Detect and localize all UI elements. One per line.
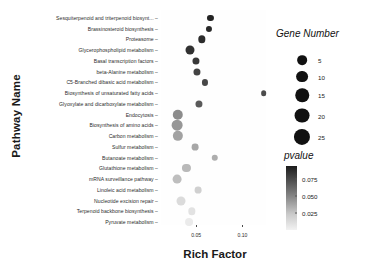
pvalue-legend-tick: [295, 179, 297, 180]
data-point: [172, 109, 182, 119]
data-point: [202, 79, 208, 85]
gene-number-legend-dot: [297, 55, 307, 65]
gene-number-legend-label: 25: [318, 134, 325, 141]
gene-number-legend-title: Gene Number: [276, 28, 376, 39]
y-tick-label: Nucleotide excision repair –: [3, 198, 158, 204]
x-tick-mark: [196, 225, 197, 227]
gene-number-legend-dot: [295, 108, 310, 123]
y-tick-label: Endocytosis –: [3, 112, 158, 118]
y-tick-label: Glycerophospholipid metabolism –: [3, 47, 158, 53]
gene-number-legend-label: 5: [318, 56, 321, 63]
data-point: [177, 196, 186, 205]
plot-area: [161, 10, 266, 225]
pvalue-legend-label: 0.025: [302, 210, 317, 217]
data-point: [196, 100, 203, 107]
y-tick-label: Pyruvate metabolism –: [3, 219, 158, 225]
pvalue-legend-tick: [295, 196, 297, 197]
pvalue-colorbar: [286, 166, 297, 230]
y-tick-label: Sulfur metabolism –: [3, 144, 158, 150]
data-point: [211, 154, 217, 160]
gene-number-legend-label: 10: [318, 73, 325, 80]
data-point: [207, 15, 213, 21]
y-tick-label: Glyoxylate and dicarboxylate metabolism …: [3, 101, 158, 107]
x-axis-title: Rich Factor: [150, 248, 280, 260]
gene-number-legend-dot: [294, 129, 310, 145]
data-point: [261, 90, 267, 96]
y-axis-tick-labels: Sesquiterpenoid and triterpenoid biosynt…: [0, 0, 158, 267]
data-point: [188, 208, 195, 215]
y-tick-label: mRNA surveillance pathway –: [3, 176, 158, 182]
pvalue-legend-tick: [295, 213, 297, 214]
data-point: [173, 131, 183, 141]
gene-number-legend: Gene Number 510152025: [284, 28, 376, 44]
y-tick-label: Brassinosteroid biosynthesis –: [3, 26, 158, 32]
data-point: [192, 143, 199, 150]
data-point: [185, 218, 193, 226]
y-tick-label: Proteasome –: [3, 36, 158, 42]
pvalue-legend-label: 0.050: [302, 193, 317, 200]
y-tick-label: Biosynthesis of unsaturated fatty acids …: [3, 90, 158, 96]
data-point: [185, 46, 194, 55]
x-tick-mark: [242, 225, 243, 227]
gene-number-legend-dot: [296, 71, 308, 83]
y-tick-label: Terpenoid backbone biosynthesis –: [3, 208, 158, 214]
pvalue-legend: pvalue 0.0750.0500.025: [284, 150, 376, 165]
y-tick-label: Carbon metabolism –: [3, 133, 158, 139]
data-point: [198, 36, 205, 43]
data-point: [193, 68, 200, 75]
y-tick-label: Linoleic acid metabolism –: [3, 187, 158, 193]
x-tick-label: 0.10: [237, 232, 247, 238]
data-point: [172, 120, 183, 131]
gene-number-legend-label: 15: [318, 92, 325, 99]
data-point: [206, 26, 212, 32]
data-point: [193, 57, 200, 64]
data-point: [182, 164, 190, 172]
data-point: [172, 175, 181, 184]
y-tick-label: C5-Branched dibasic acid metabolism –: [3, 79, 158, 85]
gene-number-legend-label: 20: [318, 112, 325, 119]
pvalue-legend-label: 0.075: [302, 176, 317, 183]
x-tick-label: 0.05: [191, 232, 201, 238]
bubble-plot-figure: Pathway Name Rich Factor Sesquiterpenoid…: [0, 0, 376, 267]
y-tick-label: beta-Alanine metabolism –: [3, 69, 158, 75]
y-tick-label: Basal transcription factors –: [3, 58, 158, 64]
gene-number-legend-dot: [295, 89, 309, 103]
y-tick-label: Butanoate metabolism –: [3, 155, 158, 161]
y-tick-label: Sesquiterpenoid and triterpenoid biosynt…: [3, 15, 158, 21]
data-point: [195, 186, 202, 193]
y-tick-label: Glutathione metabolism –: [3, 165, 158, 171]
y-tick-label: Biosynthesis of amino acids –: [3, 122, 158, 128]
pvalue-legend-title: pvalue: [284, 150, 376, 161]
